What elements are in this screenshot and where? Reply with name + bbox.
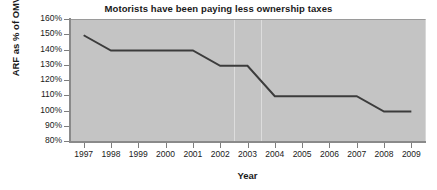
x-tick-mark [138, 143, 139, 148]
data-series-line [70, 20, 425, 142]
chart-container: Motorists have been paying less ownershi… [0, 0, 437, 190]
y-tick-mark [64, 19, 69, 20]
plot-area [70, 19, 426, 142]
y-tick-label: 120% [18, 75, 62, 84]
x-axis-title: Year [70, 170, 425, 181]
chart-title: Motorists have been paying less ownershi… [0, 3, 437, 14]
y-tick-mark [64, 95, 69, 96]
y-axis-line [69, 18, 71, 143]
y-tick-label: 160% [18, 14, 62, 23]
x-tick-mark [357, 143, 358, 148]
x-tick-mark [248, 143, 249, 148]
y-tick-mark [64, 34, 69, 35]
y-tick-mark [64, 50, 69, 51]
x-tick-mark [193, 143, 194, 148]
y-tick-label: 140% [18, 45, 62, 54]
y-tick-label: 130% [18, 60, 62, 69]
x-tick-label: 2009 [394, 150, 428, 159]
x-tick-mark [384, 143, 385, 148]
y-tick-label: 90% [18, 121, 62, 130]
x-tick-mark [111, 143, 112, 148]
x-tick-mark [275, 143, 276, 148]
y-tick-mark [64, 65, 69, 66]
x-tick-mark [84, 143, 85, 148]
y-tick-label: 100% [18, 106, 62, 115]
x-tick-mark [411, 143, 412, 148]
y-tick-mark [64, 126, 69, 127]
y-tick-label: 150% [18, 29, 62, 38]
y-tick-label: 80% [18, 136, 62, 145]
x-tick-mark [302, 143, 303, 148]
x-tick-mark [220, 143, 221, 148]
y-tick-label: 110% [18, 90, 62, 99]
y-tick-mark [64, 111, 69, 112]
y-tick-mark [64, 80, 69, 81]
y-tick-mark [64, 141, 69, 142]
plot-inner [70, 20, 425, 142]
x-tick-mark [329, 143, 330, 148]
x-tick-mark [166, 143, 167, 148]
